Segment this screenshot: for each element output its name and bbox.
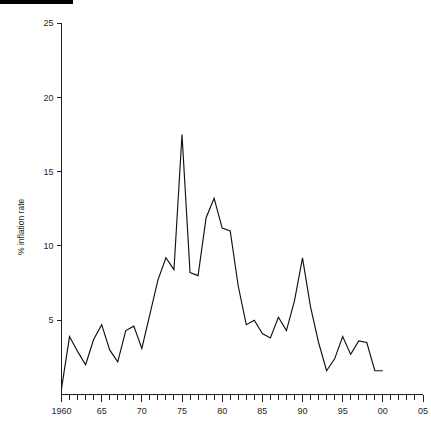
x-tick-label: 65 xyxy=(97,406,107,416)
y-axis-tick-labels: 510152025 xyxy=(43,18,53,325)
chart-figure: 510152025 1960657075808590950005 % infla… xyxy=(0,0,431,438)
x-tick-label: 00 xyxy=(378,406,388,416)
y-tick-label: 20 xyxy=(43,93,53,103)
x-tick-label: 1960 xyxy=(51,406,71,416)
x-tick-label: 05 xyxy=(418,406,428,416)
x-tick-label: 80 xyxy=(217,406,227,416)
x-tick-label: 90 xyxy=(297,406,307,416)
y-tick-label: 15 xyxy=(43,167,53,177)
inflation-rate-line xyxy=(62,134,383,388)
x-axis-tick-labels: 1960657075808590950005 xyxy=(51,406,428,416)
x-axis-ticks xyxy=(62,395,424,402)
inflation-line-chart: 510152025 1960657075808590950005 % infla… xyxy=(0,0,431,438)
y-axis-label: % inflation rate xyxy=(16,199,26,255)
y-axis-ticks xyxy=(57,23,62,320)
y-tick-label: 5 xyxy=(48,315,53,325)
x-tick-label: 95 xyxy=(338,406,348,416)
y-tick-label: 25 xyxy=(43,18,53,28)
y-tick-label: 10 xyxy=(43,241,53,251)
x-tick-label: 85 xyxy=(257,406,267,416)
x-tick-label: 75 xyxy=(177,406,187,416)
x-tick-label: 70 xyxy=(137,406,147,416)
